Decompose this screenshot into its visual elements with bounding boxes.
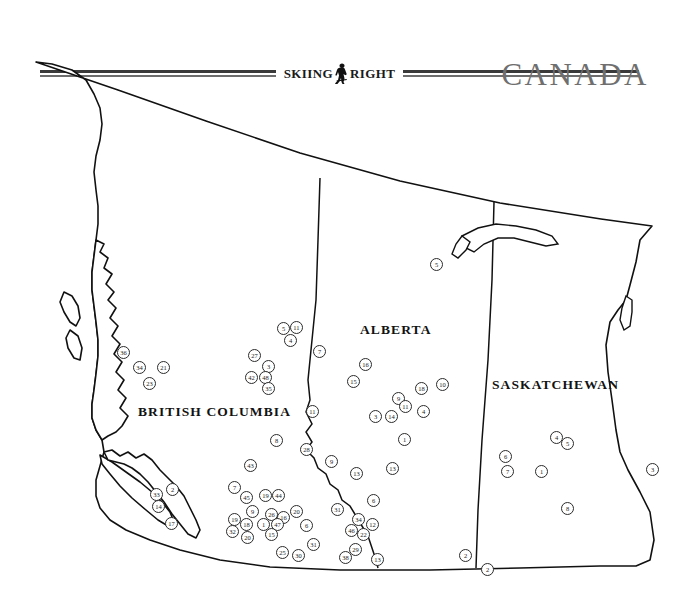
resort-marker[interactable]: 16: [359, 358, 372, 371]
resort-marker[interactable]: 42: [245, 371, 258, 384]
resort-marker[interactable]: 45: [240, 491, 253, 504]
resort-marker[interactable]: 44: [272, 489, 285, 502]
resort-marker[interactable]: 3: [369, 410, 382, 423]
resort-marker[interactable]: 33: [150, 488, 163, 501]
resort-marker[interactable]: 7: [313, 345, 326, 358]
resort-marker[interactable]: 20: [290, 505, 303, 518]
province-label-alberta: ALBERTA: [360, 322, 432, 338]
resort-marker[interactable]: 23: [143, 377, 156, 390]
queen-charlotte-islands: [60, 292, 80, 326]
map-page: SKIING RIGHT CANADA: [0, 0, 679, 600]
resort-marker[interactable]: 5: [561, 437, 574, 450]
resort-marker[interactable]: 19: [259, 489, 272, 502]
resort-marker[interactable]: 5: [430, 258, 443, 271]
resort-marker[interactable]: 8: [270, 434, 283, 447]
resort-marker[interactable]: 17: [165, 517, 178, 530]
resort-marker[interactable]: 30: [292, 549, 305, 562]
resort-marker[interactable]: 28: [300, 443, 313, 456]
resort-marker[interactable]: 11: [290, 321, 303, 334]
resort-marker[interactable]: 13: [386, 462, 399, 475]
resort-marker[interactable]: 27: [248, 349, 261, 362]
island-secondary: [66, 330, 82, 360]
resort-marker[interactable]: 10: [436, 378, 449, 391]
province-label-british-columbia: BRITISH COLUMBIA: [138, 404, 291, 420]
resort-marker[interactable]: 34: [133, 361, 146, 374]
resort-marker[interactable]: 6: [367, 494, 380, 507]
resort-marker[interactable]: 6: [499, 450, 512, 463]
resort-marker[interactable]: 2: [459, 549, 472, 562]
resort-marker[interactable]: 2: [166, 483, 179, 496]
resort-marker[interactable]: 18: [240, 518, 253, 531]
resort-marker[interactable]: 32: [226, 525, 239, 538]
resort-marker[interactable]: 12: [366, 518, 379, 531]
resort-marker[interactable]: 7: [501, 465, 514, 478]
resort-marker[interactable]: 34: [352, 513, 365, 526]
resort-marker[interactable]: 31: [307, 538, 320, 551]
resort-marker[interactable]: 15: [347, 375, 360, 388]
resort-marker[interactable]: 7: [228, 481, 241, 494]
resort-marker[interactable]: 9: [325, 455, 338, 468]
resort-marker[interactable]: 14: [152, 500, 165, 513]
province-label-saskatchewan: SASKATCHEWAN: [492, 377, 619, 393]
resort-marker[interactable]: 14: [385, 410, 398, 423]
resort-marker[interactable]: 1: [398, 433, 411, 446]
resort-marker[interactable]: 4: [417, 405, 430, 418]
resort-marker[interactable]: 38: [339, 551, 352, 564]
resort-marker[interactable]: 20: [241, 531, 254, 544]
resort-marker[interactable]: 15: [265, 528, 278, 541]
resort-marker[interactable]: 31: [331, 503, 344, 516]
resort-marker[interactable]: 2: [481, 563, 494, 576]
resort-marker[interactable]: 4: [284, 334, 297, 347]
resort-marker[interactable]: 25: [276, 546, 289, 559]
resort-marker[interactable]: 11: [399, 400, 412, 413]
resort-marker[interactable]: 36: [117, 346, 130, 359]
resort-marker[interactable]: 13: [350, 467, 363, 480]
resort-marker[interactable]: 35: [262, 382, 275, 395]
resort-marker[interactable]: 6: [300, 519, 313, 532]
resort-marker[interactable]: 3: [646, 463, 659, 476]
resort-marker[interactable]: 8: [561, 502, 574, 515]
resort-marker[interactable]: 13: [371, 553, 384, 566]
resort-marker[interactable]: 21: [157, 361, 170, 374]
resort-marker[interactable]: 18: [415, 382, 428, 395]
resort-marker[interactable]: 43: [244, 459, 257, 472]
resort-marker[interactable]: 1: [535, 465, 548, 478]
resort-marker[interactable]: 11: [306, 405, 319, 418]
resort-marker[interactable]: 5: [277, 322, 290, 335]
resort-marker[interactable]: 9: [246, 505, 259, 518]
